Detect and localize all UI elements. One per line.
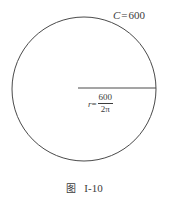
- figure-drawing: [0, 0, 169, 206]
- figure-caption: 图I-10: [0, 181, 169, 196]
- fraction-numerator: 600: [98, 93, 114, 103]
- figure-container: C=600 r= 600 2π 图I-10: [0, 0, 169, 206]
- radius-label: r= 600 2π: [88, 93, 113, 114]
- fraction-denominator: 2π: [100, 104, 111, 114]
- radius-fraction: 600 2π: [98, 93, 114, 114]
- circumference-symbol: C: [113, 9, 120, 21]
- circumference-equals: =: [121, 9, 127, 21]
- circumference-label: C=600: [113, 9, 145, 22]
- circle-shape: [12, 17, 156, 161]
- radius-equals: =: [92, 99, 97, 109]
- caption-number: I-10: [84, 182, 102, 194]
- caption-label-cjk: 图: [66, 183, 76, 194]
- circumference-value: 600: [129, 9, 146, 21]
